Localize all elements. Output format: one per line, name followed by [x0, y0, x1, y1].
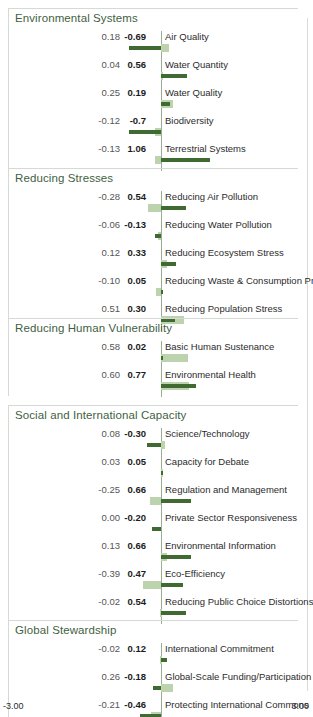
bar-series-b — [161, 583, 183, 587]
chart-row: -0.390.47Eco-Efficiency — [9, 568, 298, 596]
row-label: Capacity for Debate — [165, 456, 249, 468]
chart-row: -0.100.05Reducing Waste & Consumption Pr… — [9, 275, 298, 303]
section-title: Environmental Systems — [15, 12, 138, 24]
value-a-label: -0.10 — [98, 275, 120, 287]
chart-row: 0.130.66Environmental Information — [9, 540, 298, 568]
bar-series-a — [161, 354, 188, 362]
value-b-label: -0.18 — [124, 671, 146, 683]
chart-row: 0.580.02Basic Human Sustenance — [9, 341, 298, 369]
value-b-label: -0.13 — [124, 219, 146, 231]
row-label: Reducing Public Choice Distortions — [165, 596, 313, 608]
chart-row: -0.12-0.7Biodiversity — [9, 115, 298, 143]
value-b-label: 0.02 — [128, 341, 147, 353]
value-a-label: -0.13 — [98, 143, 120, 155]
bar-series-a — [161, 44, 169, 52]
bar-series-a — [143, 581, 161, 589]
bar-series-b — [161, 611, 186, 615]
chart-row: 0.00-0.20Private Sector Responsiveness — [9, 512, 298, 540]
value-b-label: 0.12 — [128, 643, 147, 655]
section-rows: 0.580.02Basic Human Sustenance0.600.77En… — [9, 341, 298, 397]
value-a-label: 0.13 — [102, 540, 121, 552]
value-b-label: 0.54 — [128, 191, 147, 203]
value-a-label: 0.18 — [102, 31, 121, 43]
bar-series-b — [161, 102, 170, 106]
bar-series-b — [161, 658, 167, 662]
axis-tick-min: -3.00 — [3, 701, 24, 711]
value-b-label: 0.05 — [128, 456, 147, 468]
value-b-label: 0.66 — [128, 540, 147, 552]
value-a-label: 0.04 — [102, 59, 121, 71]
value-a-label: 0.26 — [102, 671, 121, 683]
row-label: Environmental Information — [165, 540, 276, 552]
bar-series-b — [161, 262, 176, 266]
value-b-label: -0.7 — [130, 115, 146, 127]
bar-series-b — [161, 499, 191, 503]
bar-series-b — [161, 206, 186, 210]
value-a-label: 0.12 — [102, 247, 121, 259]
bar-series-b — [129, 46, 161, 50]
value-a-label: -0.12 — [98, 115, 120, 127]
axis-tick-max: 3.00 — [291, 701, 309, 711]
row-label: Reducing Population Stress — [165, 303, 282, 315]
value-b-label: 0.33 — [128, 247, 147, 259]
chart-row: -0.280.54Reducing Air Pollution — [9, 191, 298, 219]
row-label: Water Quantity — [165, 59, 228, 71]
value-b-label: 0.77 — [128, 369, 147, 381]
bar-series-b — [129, 130, 161, 134]
bar-series-b — [161, 384, 196, 388]
bar-series-a — [150, 497, 162, 505]
value-a-label: 0.60 — [102, 369, 121, 381]
chart-row: 0.120.33Reducing Ecosystem Stress — [9, 247, 298, 275]
chart-row: -0.06-0.13Reducing Water Pollution — [9, 219, 298, 247]
value-a-label: 0.25 — [102, 87, 121, 99]
chart-row: -0.131.06Terrestrial Systems — [9, 143, 298, 171]
row-label: Water Quality — [165, 87, 222, 99]
row-label: Environmental Health — [165, 369, 256, 381]
bar-series-b — [147, 443, 161, 447]
chart-row: -0.020.12International Commitment — [9, 643, 298, 671]
section-title: Social and International Capacity — [15, 409, 186, 421]
row-label: International Commitment — [165, 643, 274, 655]
value-b-label: 0.66 — [128, 484, 147, 496]
bar-series-b — [161, 158, 210, 162]
value-a-label: -0.02 — [98, 643, 120, 655]
bar-series-a — [161, 684, 173, 692]
row-label: Reducing Water Pollution — [165, 219, 272, 231]
value-a-label: 0.00 — [102, 512, 121, 524]
row-label: Biodiversity — [165, 115, 214, 127]
row-label: Reducing Air Pollution — [165, 191, 258, 203]
row-label: Science/Technology — [165, 428, 250, 440]
section-title: Reducing Human Vulnerability — [15, 322, 172, 334]
value-a-label: -0.02 — [98, 596, 120, 608]
chart-row: 0.18-0.69Air Quality — [9, 31, 298, 59]
value-a-label: -0.25 — [98, 484, 120, 496]
value-b-label: 0.56 — [128, 59, 147, 71]
chart-right-frame — [307, 18, 308, 691]
bar-series-a — [161, 441, 165, 449]
value-a-label: 0.08 — [102, 428, 121, 440]
value-a-label: -0.06 — [98, 219, 120, 231]
chart-row: 0.040.56Water Quantity — [9, 59, 298, 87]
row-label: Reducing Waste & Consumption Pressures — [165, 275, 313, 287]
row-label: Terrestrial Systems — [165, 143, 246, 155]
section-rows: -0.280.54Reducing Air Pollution-0.06-0.1… — [9, 191, 298, 331]
chart-row: 0.26-0.18Global-Scale Funding/Participat… — [9, 671, 298, 699]
section-title: Reducing Stresses — [15, 172, 113, 184]
chart-section: Environmental Systems0.18-0.69Air Qualit… — [8, 8, 298, 170]
chart-row: -0.250.66Regulation and Management — [9, 484, 298, 512]
value-a-label: 0.51 — [102, 303, 121, 315]
bar-series-b — [161, 74, 187, 78]
chart-section: Reducing Human Vulnerability0.580.02Basi… — [8, 318, 298, 396]
value-b-label: 0.54 — [128, 596, 147, 608]
value-b-label: -0.69 — [124, 31, 146, 43]
value-b-label: -0.20 — [124, 512, 146, 524]
axis-scale: -3.00 3.00 — [0, 701, 313, 715]
section-rows: 0.08-0.30Science/Technology0.030.05Capac… — [9, 428, 298, 624]
value-a-label: 0.03 — [102, 456, 121, 468]
row-label: Basic Human Sustenance — [165, 341, 274, 353]
row-label: Reducing Ecosystem Stress — [165, 247, 284, 259]
bar-series-b — [161, 471, 163, 475]
row-label: Air Quality — [165, 31, 209, 43]
section-title: Global Stewardship — [15, 624, 117, 636]
value-b-label: 0.19 — [128, 87, 147, 99]
